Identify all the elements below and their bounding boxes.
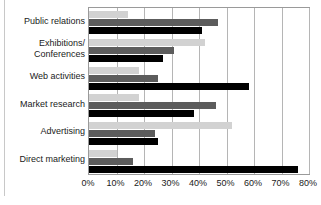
bar (89, 166, 298, 173)
x-tick-label: 30% (161, 178, 179, 188)
x-tick-label: 50% (216, 178, 234, 188)
bar-group (89, 146, 309, 174)
bar (89, 130, 155, 137)
bar (89, 19, 218, 26)
bar (89, 67, 139, 74)
x-tick-label: 20% (134, 178, 152, 188)
bar-group (89, 119, 309, 147)
category-label: Direct marketing (0, 154, 85, 165)
gridline (309, 8, 310, 174)
bar (89, 11, 128, 18)
bar (89, 27, 202, 34)
bar (89, 94, 139, 101)
bar (89, 110, 194, 117)
x-tick-label: 10% (106, 178, 124, 188)
bar (89, 102, 216, 109)
x-tick-label: 60% (244, 178, 262, 188)
bar (89, 138, 158, 145)
bar-chart-figure: Public relationsExhibitions/ Conferences… (0, 0, 321, 205)
bar (89, 39, 205, 46)
bar (89, 47, 174, 54)
bar (89, 83, 249, 90)
bar-group (89, 91, 309, 119)
x-tick-label: 70% (271, 178, 289, 188)
x-tick-label: 40% (189, 178, 207, 188)
bar (89, 75, 158, 82)
bar (89, 55, 163, 62)
bar (89, 158, 133, 165)
bar-group (89, 36, 309, 64)
category-label: Exhibitions/ Conferences (0, 38, 85, 59)
x-axis: 0%10%20%30%40%50%60%70%80% (88, 178, 310, 192)
x-tick-label: 0% (81, 178, 94, 188)
bar-group (89, 8, 309, 36)
bar (89, 150, 117, 157)
bar (89, 122, 232, 129)
bar-group (89, 63, 309, 91)
plot-area: Less The same More (88, 7, 310, 175)
category-label: Public relations (0, 16, 85, 27)
category-label: Advertising (0, 126, 85, 137)
x-tick-label: 80% (299, 178, 317, 188)
category-label: Web activities (0, 71, 85, 82)
category-label: Market research (0, 99, 85, 110)
